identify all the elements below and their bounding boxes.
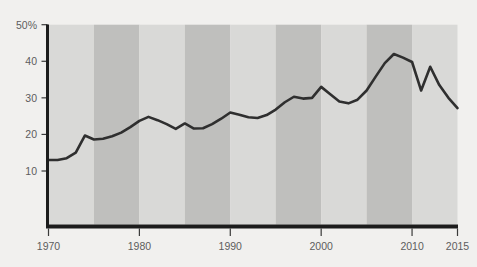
y-tick-label: 10 xyxy=(25,165,37,177)
x-tick-label: 2000 xyxy=(309,240,333,252)
background-band xyxy=(367,25,412,225)
x-tick-label: 1980 xyxy=(128,240,152,252)
background-band xyxy=(139,25,184,225)
background-band xyxy=(276,25,321,225)
background-band xyxy=(230,25,275,225)
x-tick-label: 2015 xyxy=(446,240,470,252)
x-tick-label: 2010 xyxy=(400,240,424,252)
background-band xyxy=(49,25,94,225)
background-band xyxy=(321,25,366,225)
chart-container: 50%40302010 197019801990200020102015 xyxy=(0,0,477,267)
y-tick-label: 20 xyxy=(25,128,37,140)
y-tick-label: 40 xyxy=(25,55,37,67)
x-tick-label: 1970 xyxy=(37,240,61,252)
background-band xyxy=(185,25,230,225)
line-chart: 50%40302010 197019801990200020102015 xyxy=(0,0,477,267)
x-tick-label: 1990 xyxy=(219,240,243,252)
y-tick-label: 50% xyxy=(16,19,37,31)
background-band xyxy=(412,25,457,225)
y-tick-label: 30 xyxy=(25,92,37,104)
